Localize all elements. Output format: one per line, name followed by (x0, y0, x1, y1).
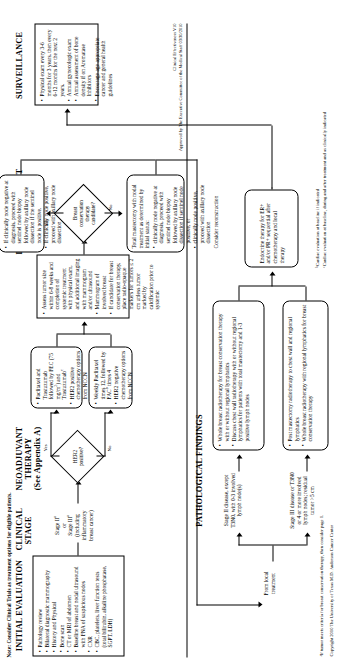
connector-path-split (238, 545, 306, 546)
column-heading-initial-evaluation: INITIAL EVALUATION (14, 557, 23, 653)
local-treatment-bct-box: If clinically node negative at diagnosis… (0, 174, 44, 252)
arrow-stage3-to-box (304, 454, 310, 458)
connector-page2-left-drop (196, 604, 260, 605)
connector-stage2-to-box (238, 457, 239, 471)
mastectomy-lead: Total mastectomy with nodal treatment as… (130, 178, 150, 248)
arrow-to-assess-tumor (81, 321, 87, 325)
column-heading-pathological-findings: PATHOLOGICAL FINDINGS (194, 405, 203, 535)
stage2-rt-item: Whole breast radiotherapy for breast con… (216, 304, 229, 446)
assess-tumor-item: Assess tumor size within 6-8 weeks and c… (40, 258, 93, 314)
endocrine-therapy-box: Endocrine therapy for ER+ and/or PR+ seq… (244, 189, 298, 267)
column-heading-surveillance: SURVEILLANCE (14, 25, 23, 105)
stage2-radiotherapy-box: Whole breast radiotherapy for breast con… (212, 300, 264, 450)
connector-to-stage2 (238, 536, 239, 546)
connector-stage2-box-out (238, 286, 239, 300)
connector-mastectomy-box-out (155, 160, 156, 174)
bct-decision-label: Breastconservationtherapycandidate? (62, 192, 104, 234)
initial-eval-item: CT or MRI of abdomen (65, 559, 72, 652)
stage2-label: Stage II disease, except T3N0, with 0-3 … (222, 471, 242, 529)
endocrine-therapy-text: Endocrine therapy for ER+ and/or PR+ seq… (258, 193, 284, 263)
stage3-label: Stage III disease or T3N0 or 4 or more i… (288, 471, 315, 529)
surveillance-item: Annual assessment of bone density if on … (72, 27, 92, 101)
bct-decision-diamond: Breastconservationtherapycandidate? (62, 192, 104, 234)
arrow-her2-no (107, 409, 113, 413)
local-treatment-bct-item: If clinically node positive, proceed wit… (42, 178, 62, 248)
stage2-rt-item: Discuss chest wall radiotherapy with or … (230, 304, 250, 446)
arrow-into-from-local-treatment (258, 602, 262, 608)
connector-her2neg-out (110, 334, 111, 346)
connector-stage-to-her2 (77, 483, 78, 503)
arrow-stage2-to-box (236, 454, 242, 458)
surveillance-box: Physical exam every 3-6 months for 3 yea… (34, 23, 98, 105)
version-line-1: Clinical Effectiveness V10 (171, 23, 177, 195)
local-treatment-bct-item: If clinically node negative at diagnosis… (2, 178, 42, 248)
connector-to-stage3 (306, 536, 307, 546)
her2-decision-label: HER2positive? (58, 437, 96, 475)
mastectomy-trailer: Consider reconstruction (212, 178, 219, 248)
her2-decision-diamond: HER2positive? (58, 437, 96, 475)
footnote-b: ᵇCardiac evaluation at baseline if indic… (314, 97, 320, 267)
arrow-rt-to-endocrine (269, 271, 275, 275)
page-divider (186, 23, 187, 657)
from-local-treatment-label: From local treatment (262, 561, 275, 605)
her2-yes-label: Yes (42, 444, 47, 451)
connector-rt-to-endocrine (271, 275, 272, 287)
stage3-rt-item: Whole breast radiotherapy with regional … (300, 304, 313, 446)
clinical-trials-note: Note: Consider Clinical Trials as treatm… (5, 492, 11, 657)
initial-eval-item: History and Physical (50, 559, 57, 652)
initial-eval-item: CXR (86, 559, 93, 652)
neoadjuvant-her2pos-item: HER2 positive chemotherapy options from … (68, 350, 88, 404)
connector-bct-box-out (20, 160, 21, 174)
initial-eval-item: CBC, platelets, liver function tests (to… (93, 559, 113, 652)
connector-page2-top-rail (196, 160, 197, 605)
surveillance-item: Physical exam every 3-6 months for 3 yea… (38, 27, 64, 101)
connector-merge-to-assess (83, 325, 84, 335)
neoadjuvant-her2-negative-box: Weekly Paclitaxel times 12, followed by … (88, 346, 132, 408)
her2-no-label: No (106, 445, 111, 451)
column-heading-neoadjuvant-therapy: NEOADJUVANTTHERAPY(See Appendix A) (14, 419, 41, 497)
her2-no-line (104, 413, 105, 457)
surveillance-item: Encourage age appropriate cancer and gen… (93, 27, 113, 101)
flowchart-frame: Note: Consider Clinical Trials as treatm… (0, 0, 346, 665)
column-heading-clinical-stage: CLINICALSTAGE (14, 510, 32, 550)
neoadjuvant-her2-positive-box: Paclitaxel and Trastuzumab followed by F… (30, 346, 82, 408)
mastectomy-item: clinically node positive, proceed with a… (191, 178, 211, 248)
arrow-to-stage3-label (304, 532, 310, 536)
copyright-line: Copyright 2010 The University of Texas M… (328, 336, 334, 656)
her2-yes-line (50, 413, 51, 457)
assess-tumor-box: Assess tumor size within 6-8 weeks and c… (36, 254, 129, 318)
surveillance-item: Annual gynecologic exam (65, 27, 72, 101)
stage3-rt-item: Post mastectomy radiotherapy to chest wa… (286, 304, 299, 446)
connector-endocrine-up (66, 125, 271, 126)
neoadjuvant-her2pos-item: Paclitaxel and Trastuzumab followed by F… (34, 350, 67, 404)
version-stamp: Clinical Effectiveness V10 Approved by T… (171, 23, 182, 195)
footnote-a: ᵃIf tumor meets criteria for breast cons… (318, 336, 324, 656)
connector-stage3-box-out (305, 286, 306, 300)
assess-tumor-item: If candidate for breast conservation the… (107, 258, 160, 314)
clinical-stage-label: Stage IIaorStage IIIa(includinginflammat… (53, 503, 93, 547)
flowchart-stage: Note: Consider Clinical Trials as treatm… (0, 0, 346, 665)
connector-her2pos-out (56, 334, 57, 346)
arrow-to-stage2-label (236, 532, 242, 536)
connector-endocrine-to-surveillance (66, 111, 67, 125)
connector-endocrine-rail (271, 125, 272, 189)
arrow-endocrine-to-surveillance (64, 108, 70, 112)
initial-eval-item: Bilateral diagnostic mammography (43, 559, 50, 652)
initial-eval-item: Bone scan (58, 559, 65, 652)
initial-evaluation-box: Pathology review Bilateral diagnostic ma… (32, 555, 124, 656)
assess-tumor-item: Mammogram of involved breast (93, 258, 106, 314)
connector-assess-to-bct (83, 242, 84, 254)
initial-eval-item: Pathology review (36, 559, 43, 652)
neoadjuvant-her2neg-item: Weekly Paclitaxel times 12, followed by … (92, 350, 112, 404)
connector-stage3-to-box (306, 457, 307, 471)
neoadjuvant-her2neg-item: HER2 negative chemotherapy options from … (112, 350, 132, 404)
connector-page1-to-page2 (155, 160, 197, 161)
initial-eval-item: Baseline breast and nodal ultrasound wit… (72, 559, 85, 652)
version-line-2: Approved by The Executive Committee of t… (177, 23, 183, 195)
connector-from-local-out (272, 545, 273, 561)
footnote-c: ᶜCardiac evaluation at baseline, during … (321, 97, 327, 267)
arrow-bct-no (118, 210, 122, 216)
connector-local-treatment-merge (20, 160, 155, 161)
bct-no-label: No (107, 204, 112, 210)
arrow-her2-yes (53, 409, 59, 413)
